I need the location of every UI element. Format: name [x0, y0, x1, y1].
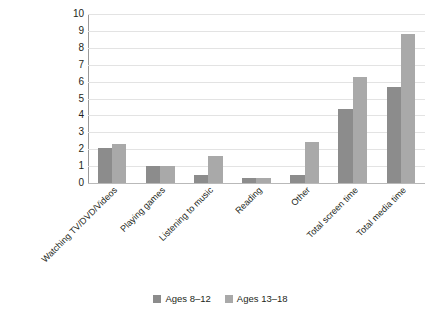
bar-group — [338, 14, 368, 183]
bar-group — [97, 14, 127, 183]
bar — [242, 178, 256, 183]
bar — [353, 77, 367, 183]
plot-area — [88, 14, 425, 183]
bar — [146, 166, 160, 183]
x-axis-category-label-text: Watching TV/DVD/Videos — [40, 185, 119, 264]
bar — [112, 144, 126, 183]
y-axis-tick-label: 2 — [64, 144, 84, 154]
legend-swatch-icon — [225, 295, 233, 303]
x-axis-category-label-text: Reading — [233, 185, 264, 216]
y-axis-tick-label: 9 — [64, 26, 84, 36]
chart-legend: Ages 8–12Ages 13–18 — [0, 294, 441, 304]
legend-label: Ages 8–12 — [165, 294, 210, 304]
bar-group — [145, 14, 175, 183]
x-axis-category-label-text: Other — [289, 185, 312, 208]
x-axis-category-label-text: Total media time — [355, 185, 408, 238]
legend-label: Ages 13–18 — [237, 294, 288, 304]
bar-chart: 012345678910 Watching TV/DVD/VideosPlayi… — [0, 0, 441, 313]
bar — [338, 109, 352, 183]
legend-item[interactable]: Ages 13–18 — [225, 294, 288, 304]
bar — [305, 142, 319, 183]
y-axis-tick-label: 5 — [64, 94, 84, 104]
bar — [98, 148, 112, 183]
x-axis-category-label-text: Total screen time — [305, 185, 360, 240]
x-axis-category-label-text: Playing games — [118, 185, 167, 234]
y-axis-tick-labels: 012345678910 — [60, 14, 84, 183]
y-axis-tick-label: 8 — [64, 43, 84, 53]
bars-layer — [88, 14, 425, 183]
legend-swatch-icon — [153, 295, 161, 303]
y-axis-tick-label: 7 — [64, 60, 84, 70]
bar — [290, 175, 304, 183]
y-axis-tick-label: 4 — [64, 110, 84, 120]
bar-group — [193, 14, 223, 183]
y-axis-tick-label: 3 — [64, 127, 84, 137]
bar-group — [386, 14, 416, 183]
bar-group — [290, 14, 320, 183]
bar — [208, 156, 222, 183]
legend-item[interactable]: Ages 8–12 — [153, 294, 210, 304]
bar — [256, 178, 270, 183]
bar — [194, 175, 208, 183]
y-axis-tick-label: 1 — [64, 161, 84, 171]
x-axis-category-labels: Watching TV/DVD/VideosPlaying gamesListe… — [88, 185, 425, 265]
bar-group — [242, 14, 272, 183]
y-axis-tick-label: 10 — [64, 9, 84, 19]
y-axis-tick-label: 6 — [64, 77, 84, 87]
bar — [160, 166, 174, 183]
y-axis-tick-label: 0 — [64, 178, 84, 188]
bar — [401, 34, 415, 183]
bar — [387, 87, 401, 183]
